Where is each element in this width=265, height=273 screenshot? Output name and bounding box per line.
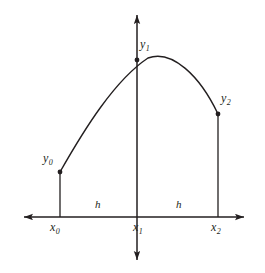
label-y0: y0	[43, 152, 52, 164]
label-x1: x1	[133, 221, 142, 233]
label-h-right: h	[176, 199, 182, 210]
label-x2: x2	[211, 221, 220, 233]
label-y2: y2	[221, 92, 230, 104]
point-marker-y0	[58, 170, 63, 175]
label-h-left: h	[95, 199, 101, 210]
point-marker-y1	[135, 58, 140, 63]
label-y1: y1	[140, 38, 149, 50]
parabola-figure: y0 y1 y2 x0 x1 x2 h h	[0, 0, 265, 273]
point-marker-y2	[216, 112, 221, 117]
parabola-curve	[60, 56, 218, 172]
label-x0: x0	[50, 221, 59, 233]
